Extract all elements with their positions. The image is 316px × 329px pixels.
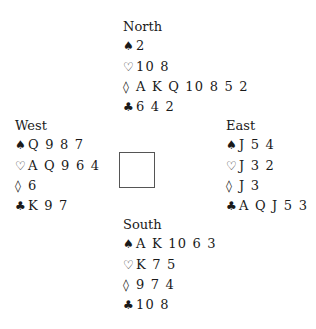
diamond-icon: ◊ xyxy=(123,78,136,97)
hand-south: South ♠A K 10 6 3 ♡K 7 5 ◊9 7 4 ♣10 8 xyxy=(123,215,217,315)
diamond-icon: ◊ xyxy=(226,177,239,196)
diamond-icon: ◊ xyxy=(123,276,136,295)
heart-icon: ♡ xyxy=(15,157,28,176)
east-diamonds-cards: J 3 xyxy=(239,178,260,193)
west-spades: ♠Q 9 8 7 xyxy=(15,135,100,155)
west-clubs-cards: K 9 7 xyxy=(28,198,69,213)
south-clubs-cards: 10 8 xyxy=(136,297,170,312)
spade-icon: ♠ xyxy=(226,136,239,155)
north-diamonds-cards: A K Q 10 8 5 2 xyxy=(136,79,249,94)
west-clubs: ♣K 9 7 xyxy=(15,196,100,216)
west-hearts: ♡A Q 9 6 4 xyxy=(15,156,100,176)
heart-icon: ♡ xyxy=(226,157,239,176)
club-icon: ♣ xyxy=(15,197,28,216)
south-hearts-cards: K 7 5 xyxy=(136,257,177,272)
south-spades: ♠A K 10 6 3 xyxy=(123,234,217,254)
east-clubs: ♣A Q J 5 3 xyxy=(226,196,308,216)
player-label-south: South xyxy=(123,215,217,234)
club-icon: ♣ xyxy=(123,98,136,117)
east-clubs-cards: A Q J 5 3 xyxy=(239,198,308,213)
hand-north: North ♠2 ♡10 8 ◊A K Q 10 8 5 2 ♣6 4 2 xyxy=(123,17,249,117)
east-spades: ♠J 5 4 xyxy=(226,135,308,155)
player-label-north: North xyxy=(123,17,249,36)
diamond-icon: ◊ xyxy=(15,177,28,196)
west-diamonds: ◊6 xyxy=(15,176,100,196)
north-clubs-cards: 6 4 2 xyxy=(136,99,175,114)
east-spades-cards: J 5 4 xyxy=(239,137,275,152)
east-diamonds: ◊J 3 xyxy=(226,176,308,196)
south-hearts: ♡K 7 5 xyxy=(123,255,217,275)
spade-icon: ♠ xyxy=(123,37,136,56)
west-hearts-cards: A Q 9 6 4 xyxy=(28,158,100,173)
south-clubs: ♣10 8 xyxy=(123,295,217,315)
hand-east: East ♠J 5 4 ♡J 3 2 ◊J 3 ♣A Q J 5 3 xyxy=(226,116,308,216)
club-icon: ♣ xyxy=(226,197,239,216)
east-hearts: ♡J 3 2 xyxy=(226,156,308,176)
south-diamonds: ◊9 7 4 xyxy=(123,275,217,295)
north-hearts: ♡10 8 xyxy=(123,57,249,77)
hand-west: West ♠Q 9 8 7 ♡A Q 9 6 4 ◊6 ♣K 9 7 xyxy=(15,116,100,216)
west-diamonds-cards: 6 xyxy=(28,178,37,193)
south-spades-cards: A K 10 6 3 xyxy=(136,236,217,251)
east-hearts-cards: J 3 2 xyxy=(239,158,275,173)
south-diamonds-cards: 9 7 4 xyxy=(136,277,175,292)
west-spades-cards: Q 9 8 7 xyxy=(28,137,84,152)
club-icon: ♣ xyxy=(123,296,136,315)
north-spades-cards: 2 xyxy=(136,38,145,53)
player-label-west: West xyxy=(15,116,100,135)
player-label-east: East xyxy=(226,116,308,135)
heart-icon: ♡ xyxy=(123,58,136,77)
heart-icon: ♡ xyxy=(123,256,136,275)
north-hearts-cards: 10 8 xyxy=(136,59,170,74)
spade-icon: ♠ xyxy=(123,235,136,254)
table-center-box xyxy=(119,152,155,188)
spade-icon: ♠ xyxy=(15,136,28,155)
north-diamonds: ◊A K Q 10 8 5 2 xyxy=(123,77,249,97)
north-spades: ♠2 xyxy=(123,36,249,56)
north-clubs: ♣6 4 2 xyxy=(123,97,249,117)
